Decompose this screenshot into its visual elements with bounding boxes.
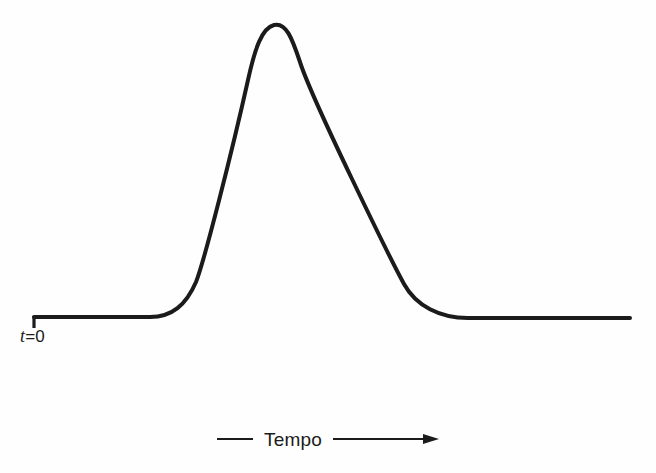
t-zero-annotation: t=0 bbox=[20, 327, 45, 345]
zero-value: 0 bbox=[35, 327, 45, 346]
equals-symbol: = bbox=[25, 327, 35, 346]
response-curve-path bbox=[34, 25, 630, 318]
response-curve-plot bbox=[0, 0, 656, 473]
figure-container: t=0 Tempo bbox=[0, 0, 656, 473]
curve-group bbox=[34, 25, 630, 318]
